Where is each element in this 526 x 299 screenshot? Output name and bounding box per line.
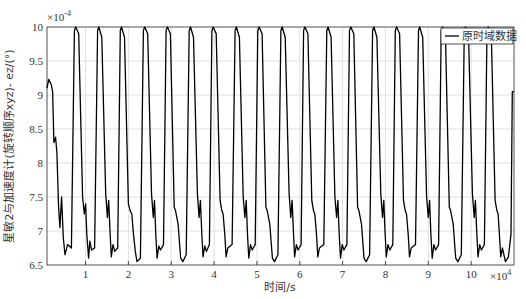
x-tick-label: 7 <box>340 268 346 280</box>
y-tick-label: 8.5 <box>29 123 43 135</box>
y-tick-label: 8 <box>38 157 44 169</box>
series-line-raw-data <box>47 27 514 262</box>
legend[interactable]: 原时域数据 <box>441 28 517 44</box>
x-tick-label: 6 <box>297 268 303 280</box>
y-tick-label: 7.5 <box>29 191 43 203</box>
y-tick-label: 7 <box>38 225 44 237</box>
y-axis-label: 星敏2与加速度计(旋转顺序xyz)- ez/(°) <box>2 49 16 242</box>
x-tick-label: 2 <box>126 268 132 280</box>
legend-label: 原时域数据 <box>462 29 517 43</box>
x-multiplier: ×104 <box>490 268 511 282</box>
x-axis-label: 时间/s <box>264 281 296 294</box>
y-tick-label: 9.5 <box>29 55 43 67</box>
x-tick-label: 5 <box>254 268 260 280</box>
x-tick-label: 9 <box>426 268 432 280</box>
x-tick-label: 10 <box>466 268 478 280</box>
x-axis-ticks: 12345678910 <box>83 261 477 280</box>
x-tick-label: 1 <box>83 268 89 280</box>
x-tick-label: 4 <box>211 268 217 280</box>
y-axis-ticks: 6.577.588.599.510 <box>29 21 43 271</box>
y-tick-label: 10 <box>32 21 44 33</box>
y-tick-label: 6.5 <box>29 259 43 271</box>
x-tick-label: 8 <box>383 268 389 280</box>
y-multiplier: ×10-4 <box>47 9 71 23</box>
y-tick-label: 9 <box>38 89 44 101</box>
line-chart: 6.577.588.599.510 12345678910 ×10-4 ×104… <box>0 0 526 299</box>
x-tick-label: 3 <box>168 268 174 280</box>
